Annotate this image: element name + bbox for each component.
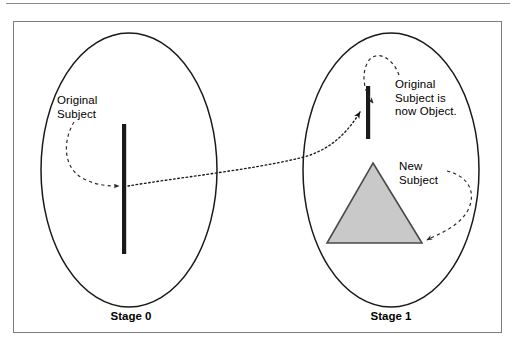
figure-container: Original Subject Original Subject is now…: [0, 0, 516, 344]
stage-0-label: Stage 0: [71, 310, 191, 322]
original-subject-bar: [122, 124, 126, 254]
stage-0-boundary: [41, 33, 217, 307]
label-original-subject-now-object: Original Subject is now Object.: [395, 78, 457, 119]
original-subject-leader: [66, 122, 119, 186]
stage-1-boundary: [303, 33, 479, 307]
stage-transition-arrow: [128, 112, 360, 186]
label-new-subject: New Subject: [399, 160, 438, 187]
stage-1-label: Stage 1: [331, 310, 451, 322]
diagram-canvas: [0, 0, 516, 344]
object-bar: [366, 86, 370, 139]
label-original-subject: Original Subject: [57, 94, 97, 121]
